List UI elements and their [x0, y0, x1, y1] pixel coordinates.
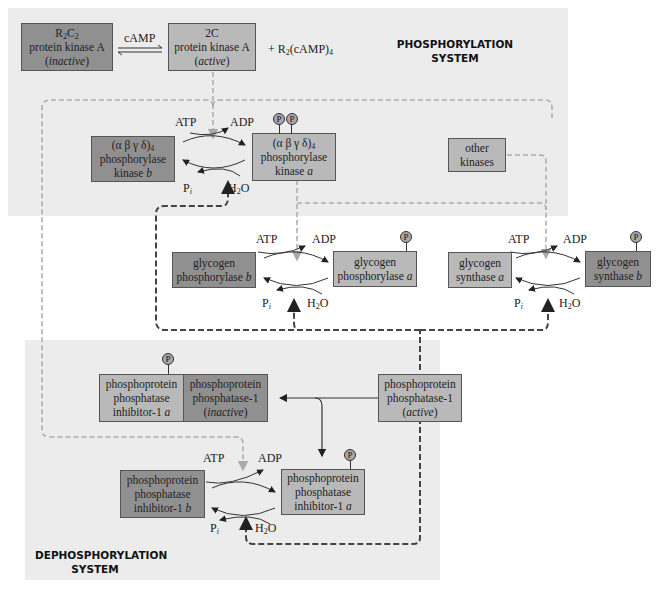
state-text: inactive [49, 55, 85, 67]
inhibitor-1-a-complex-box: phosphoprotein phosphatase inhibitor-1 a [99, 374, 184, 422]
box-line-1: phosphoprotein [190, 377, 262, 391]
glycogen-synthase-b-box: glycogen synthase b [585, 251, 651, 287]
glycogen-phosphorylase-a-box: glycogen phosphorylase a [333, 251, 417, 287]
phosphorylase-kinase-a-box: (α β γ δ)4 phosphorylase kinase a [252, 133, 336, 181]
box-line-1: phosphoprotein [127, 473, 199, 487]
phospho-tag-stem [168, 364, 169, 374]
state-text: active [406, 406, 433, 418]
box-line-3: (inactive) [203, 405, 247, 419]
phospho-tag-icon: P [162, 353, 174, 365]
phosphatase-1-active-box: phosphoprotein phosphatase-1 (active) [378, 374, 462, 422]
dephosphorylation-system-label: DEPHOSPHORYLATION SYSTEM [35, 548, 155, 576]
box-line-1: glycogen [193, 256, 235, 270]
box-line-3: kinase a [275, 164, 313, 178]
box-line-1: glycogen [354, 255, 396, 269]
box-line-1: R2C2 [55, 26, 78, 40]
adp-label: ADP [563, 232, 587, 247]
atp-label: ATP [175, 115, 196, 130]
phosphorylation-system-label: PHOSPHORYLATION SYSTEM [385, 37, 525, 65]
box-line-1: phosphoprotein [384, 377, 456, 391]
phospho-tag-icon: P [286, 113, 298, 125]
box-line-2: synthase a [456, 270, 504, 284]
region-label-line: SYSTEM [385, 51, 525, 65]
atp-label: ATP [508, 232, 529, 247]
box-line-2: phosphatase-1 [193, 391, 259, 405]
region-label-line: SYSTEM [35, 562, 155, 576]
box-line-2: protein kinase A [29, 40, 104, 54]
adp-label: ADP [230, 115, 254, 130]
box-line-2: kinases [460, 155, 494, 169]
phospho-tag-icon: P [630, 231, 642, 243]
phospho-tag-stem [350, 460, 351, 469]
phosphatase-1-inactive-box: phosphoprotein phosphatase-1 (inactive) [183, 374, 268, 422]
box-line-2: phosphatase [113, 391, 169, 405]
pi-label: Pi [210, 521, 219, 536]
box-line-3: kinase b [114, 166, 152, 180]
phospho-tag-stem [406, 242, 407, 251]
phospho-tag-icon: P [344, 449, 356, 461]
other-kinases-box: other kinases [448, 138, 506, 172]
box-line-3: inhibitor-1 b [134, 501, 192, 515]
glycogen-synthase-a-box: glycogen synthase a [448, 252, 512, 288]
box-line-3: (inactive) [45, 54, 89, 68]
state-text: inactive [207, 406, 243, 418]
box-line-2: phosphorylase a [337, 269, 412, 283]
protein-kinase-a-active-box: 2C protein kinase A (active) [168, 23, 256, 71]
pi-label: Pi [262, 296, 271, 311]
atp-label: ATP [256, 232, 277, 247]
box-line-1: other [465, 141, 489, 155]
h2o-label: H2O [228, 181, 249, 196]
adp-label: ADP [258, 451, 282, 466]
h2o-label: H2O [559, 296, 580, 311]
box-line-1: glycogen [459, 256, 501, 270]
glycogen-phosphorylase-b-box: glycogen phosphorylase b [172, 252, 256, 288]
protein-kinase-a-inactive-box: R2C2 protein kinase A (inactive) [21, 23, 113, 71]
box-line-3: (active) [402, 405, 437, 419]
region-label-line: DEPHOSPHORYLATION [35, 548, 155, 562]
box-line-1: 2C [205, 26, 218, 40]
box-line-1: phosphoprotein [106, 377, 178, 391]
box-line-2: synthase b [594, 269, 642, 283]
state-text: active [198, 55, 225, 67]
r2-camp4-byproduct-label: + R2(cAMP)4 [268, 42, 333, 57]
box-line-2: phosphatase [134, 487, 190, 501]
box-line-2: phosphorylase [261, 150, 327, 164]
box-line-2: protein kinase A [174, 40, 249, 54]
pi-label: Pi [514, 296, 523, 311]
camp-label: cAMP [124, 31, 155, 46]
phospho-tag-stem [291, 124, 292, 134]
inhibitor-1-a-box: phosphoprotein phosphatase inhibitor-1 a [281, 469, 365, 515]
box-line-1: phosphoprotein [287, 471, 359, 485]
h2o-label: H2O [255, 521, 276, 536]
phospho-tag-icon: P [400, 231, 412, 243]
h2o-label: H2O [307, 296, 328, 311]
phospho-tag-stem [636, 242, 637, 251]
adp-label: ADP [312, 232, 336, 247]
box-line-2: phosphorylase b [176, 270, 251, 284]
inhibitor-1-b-box: phosphoprotein phosphatase inhibitor-1 b [120, 470, 205, 518]
box-line-3: inhibitor-1 a [294, 499, 352, 513]
box-line-3: (active) [194, 54, 229, 68]
box-line-1: (α β γ δ)4 [112, 138, 155, 152]
box-line-2: phosphatase [295, 485, 351, 499]
phosphorylase-kinase-b-box: (α β γ δ)4 phosphorylase kinase b [91, 136, 175, 182]
box-line-1: glycogen [597, 255, 639, 269]
atp-label: ATP [203, 451, 224, 466]
phospho-tag-stem [279, 124, 280, 134]
box-line-3: inhibitor-1 a [113, 405, 171, 419]
phospho-tag-icon: P [273, 113, 285, 125]
box-line-2: phosphatase-1 [387, 391, 453, 405]
pi-label: Pi [183, 181, 192, 196]
box-line-1: (α β γ δ)4 [273, 136, 316, 150]
box-line-2: phosphorylase [100, 152, 166, 166]
region-label-line: PHOSPHORYLATION [385, 37, 525, 51]
